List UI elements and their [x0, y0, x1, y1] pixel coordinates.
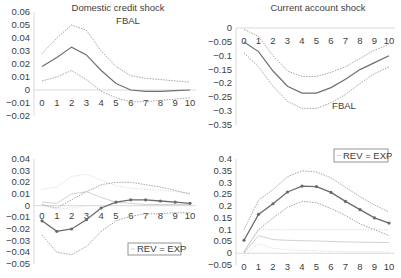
- panel-current-account-rev-exp: 0.40.350.30.250.20.150.10.050−0.05012345…: [208, 149, 395, 272]
- x-tick-label: 1: [54, 210, 59, 221]
- y-tick-label: −0.35: [208, 119, 232, 130]
- x-tick-label: 2: [69, 97, 74, 108]
- x-tick-label: 4: [99, 210, 104, 221]
- data-point-marker: [144, 198, 147, 201]
- legend: REV = EXP: [128, 243, 186, 255]
- series-line: [42, 174, 190, 193]
- x-tick-label: 9: [372, 35, 377, 46]
- x-tick-label: 2: [270, 261, 275, 272]
- legend: REV = EXP: [334, 149, 392, 162]
- y-tick-label: −0.25: [208, 91, 232, 102]
- y-tick-label: −0.01: [6, 97, 30, 108]
- y-tick-label: −0.1: [213, 50, 232, 61]
- data-point-marker: [159, 199, 162, 202]
- data-point-marker: [174, 201, 177, 204]
- x-tick-label: 5: [314, 261, 319, 272]
- y-tick-label: 0: [25, 84, 30, 95]
- y-tick-label: 0.15: [214, 212, 233, 223]
- x-tick-label: 7: [143, 97, 148, 108]
- y-tick-label: −0.03: [6, 235, 30, 246]
- y-tick-label: −0.04: [6, 246, 30, 257]
- x-tick-label: 8: [357, 35, 362, 46]
- y-tick-label: 0: [25, 200, 30, 211]
- y-tick-label: 0.04: [12, 153, 31, 164]
- data-point-marker: [286, 190, 289, 193]
- y-tick-label: 0: [227, 22, 232, 33]
- y-tick-label: 0.4: [219, 153, 232, 164]
- y-tick-label: −0.2: [213, 77, 232, 88]
- x-tick-label: 9: [372, 261, 377, 272]
- data-point-marker: [40, 219, 43, 222]
- chart-title: Domestic credit shock: [72, 2, 165, 13]
- impulse-response-charts: Domestic credit shock0.060.050.040.030.0…: [0, 0, 401, 278]
- y-tick-label: 0.01: [12, 188, 31, 199]
- x-tick-label: 10: [185, 97, 196, 108]
- series-line: [244, 230, 389, 251]
- data-point-marker: [114, 201, 117, 204]
- y-tick-label: −0.01: [6, 211, 30, 222]
- x-tick-label: 8: [158, 97, 163, 108]
- y-tick-label: 0.05: [214, 235, 233, 246]
- y-tick-label: −0.05: [208, 36, 232, 47]
- panel-current-account-fbal: Current account shock0−0.05−0.1−0.15−0.2…: [208, 2, 395, 130]
- x-tick-label: 3: [84, 97, 89, 108]
- x-tick-label: 6: [328, 261, 333, 272]
- data-point-marker: [271, 202, 274, 205]
- y-tick-label: 0.01: [12, 71, 31, 82]
- series-line: [42, 25, 190, 82]
- x-tick-label: 2: [270, 35, 275, 46]
- legend-label: REV = EXP: [137, 243, 186, 254]
- series-line: [244, 171, 389, 230]
- y-tick-label: −0.05: [208, 259, 232, 270]
- data-point-marker: [242, 239, 245, 242]
- data-point-marker: [329, 191, 332, 194]
- x-tick-label: 10: [384, 35, 395, 46]
- data-point-marker: [315, 185, 318, 188]
- y-tick-label: 0.02: [12, 176, 31, 187]
- y-tick-label: −0.05: [6, 258, 30, 269]
- y-tick-label: −0.02: [6, 223, 30, 234]
- y-tick-label: 0: [227, 247, 232, 258]
- series-line: [244, 236, 389, 254]
- y-tick-label: 0.03: [12, 165, 31, 176]
- y-tick-label: 0.03: [12, 45, 31, 56]
- y-tick-label: 0.02: [12, 58, 31, 69]
- x-tick-label: 7: [343, 261, 348, 272]
- series-line: [244, 186, 389, 240]
- x-tick-label: 5: [113, 210, 118, 221]
- series-line: [244, 42, 389, 93]
- x-tick-label: 5: [113, 97, 118, 108]
- y-tick-label: 0.1: [219, 224, 232, 235]
- panel-domestic-credit-rev-exp: 0.040.030.020.010−0.01−0.02−0.03−0.04−0.…: [6, 153, 196, 269]
- series-annotation: FBAL: [332, 100, 356, 111]
- data-point-marker: [129, 198, 132, 201]
- series-line: [42, 206, 190, 210]
- y-tick-label: 0.06: [12, 6, 31, 17]
- y-tick-label: 0.35: [214, 165, 233, 176]
- data-point-marker: [373, 216, 376, 219]
- y-tick-label: −0.15: [208, 64, 232, 75]
- data-point-marker: [55, 230, 58, 233]
- data-point-marker: [85, 218, 88, 221]
- data-point-marker: [188, 202, 191, 205]
- x-tick-label: 9: [173, 210, 178, 221]
- y-tick-label: 0.05: [12, 19, 31, 30]
- x-tick-label: 0: [241, 35, 246, 46]
- data-point-marker: [70, 227, 73, 230]
- data-point-marker: [100, 206, 103, 209]
- data-point-marker: [358, 208, 361, 211]
- data-point-marker: [387, 221, 390, 224]
- data-point-marker: [300, 184, 303, 187]
- y-tick-label: 0.3: [219, 177, 232, 188]
- x-tick-label: 8: [158, 210, 163, 221]
- y-tick-label: 0.04: [12, 32, 31, 43]
- x-tick-label: 6: [128, 97, 133, 108]
- series-line: [42, 47, 190, 91]
- x-tick-label: 7: [343, 35, 348, 46]
- x-tick-label: 1: [54, 97, 59, 108]
- y-tick-label: −0.02: [6, 110, 30, 121]
- x-tick-label: 3: [285, 35, 290, 46]
- x-tick-label: 4: [299, 35, 304, 46]
- x-tick-label: 4: [99, 97, 104, 108]
- x-tick-label: 5: [314, 35, 319, 46]
